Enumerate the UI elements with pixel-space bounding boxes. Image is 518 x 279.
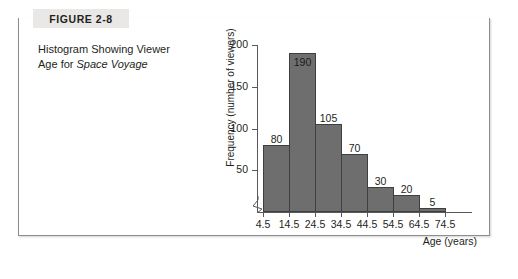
x-axis-tick [315,212,316,217]
figure-number-tab: FIGURE 2-8 [33,9,129,28]
x-axis-tick-label: 4.5 [256,218,271,230]
histogram-bar: 30 [367,187,394,212]
caption-line-2-prefix: Age for [38,58,77,70]
figure-container: FIGURE 2-8 Histogram Showing Viewer Age … [0,0,518,279]
bar-value-label: 30 [375,175,387,187]
y-axis-tick-label: 200 [230,38,248,50]
x-axis-tick [289,212,290,217]
histogram-bar: 70 [341,154,368,212]
histogram-bar: 105 [315,124,342,212]
bar-value-label: 20 [401,183,413,195]
figure-caption: Histogram Showing Viewer Age for Space V… [38,42,213,72]
x-axis-tick [341,212,342,217]
x-axis-tick-label: 14.5 [279,218,299,230]
x-axis-tick [445,212,446,217]
y-axis-tick-label: 50 [236,163,248,175]
bar-value-label: 190 [294,56,312,68]
x-axis-tick-label: 54.5 [383,218,403,230]
x-axis-tick-label: 24.5 [305,218,325,230]
histogram-bar: 20 [393,195,420,212]
figure-number-label: FIGURE 2-8 [49,13,112,25]
x-axis-tick-label: 34.5 [331,218,351,230]
x-axis-tick-label: 74.5 [435,218,455,230]
histogram-chart: Frequency (number of viewers) 5010015020… [207,30,479,230]
x-axis-tick-label: 44.5 [357,218,377,230]
x-axis-tick [419,212,420,217]
bar-value-label: 105 [320,112,338,124]
y-axis-tick-label: 100 [230,122,248,134]
x-axis-tick-label: 64.5 [409,218,429,230]
caption-line-1: Histogram Showing Viewer [38,43,170,55]
x-axis-tick [263,212,264,217]
histogram-bar: 5 [419,208,446,212]
x-axis-tick [393,212,394,217]
histogram-bars: 801901057030205 [257,45,472,212]
x-axis-title: Age (years) [357,235,477,247]
x-axis-tick [367,212,368,217]
bar-value-label: 70 [349,142,361,154]
y-axis-tick-label: 150 [230,80,248,92]
caption-title-italic: Space Voyage [77,58,148,70]
bar-value-label: 80 [271,133,283,145]
bar-value-label: 5 [430,196,436,208]
histogram-bar: 190 [289,53,316,212]
histogram-bar: 80 [263,145,290,212]
